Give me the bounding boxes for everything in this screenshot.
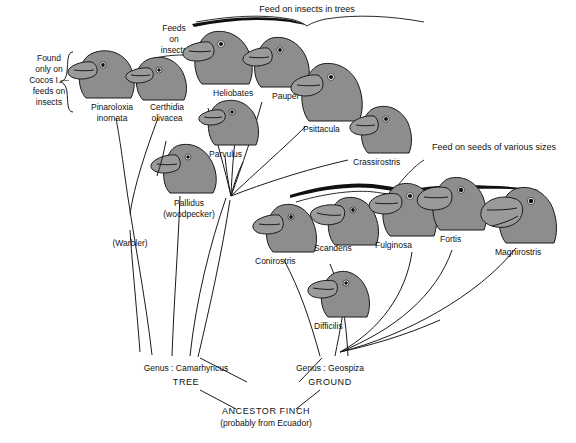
branch-tree-pallidus <box>172 196 180 356</box>
finch-radiation-figure: Feed on insects in trees Found only on C… <box>0 0 576 443</box>
bird-label-certhidia-line-1: olivacea <box>151 113 182 123</box>
ancestor-finch-line-1: ANCESTOR FINCH <box>222 406 310 416</box>
branch-tree-up-2 <box>190 198 226 356</box>
bird-label-pinaroloxia-line-0: Pinaroloxia <box>91 102 133 112</box>
left-bracket-label-line-2: Cocos I.— <box>29 75 69 85</box>
bird-label-fortis: Fortis <box>440 234 461 244</box>
branch-tree-warbler <box>130 230 140 352</box>
feeds-on-insects-line-1: on <box>169 34 179 44</box>
bird-head-pinaroloxia: Pinaroloxia inornata <box>68 51 134 123</box>
bird-head-certhidia: Certhidia olivacea <box>126 57 187 123</box>
branch-tree-pinaroloxia <box>116 118 152 355</box>
bird-head-pallidus: Pallidus (woodpecker) <box>151 141 216 219</box>
bird-label-difficilis: Difficilis <box>314 321 343 331</box>
ancestor-finch-line-2: (probably from Ecuador) <box>220 418 312 428</box>
left-bracket-label-line-3: feeds on <box>33 86 66 96</box>
genus-tree-group: Genus : Camarhyncus TREE <box>144 363 229 387</box>
genus-tree-name: Genus : Camarhyncus <box>144 363 229 373</box>
bird-label-heliobates: Heliobates <box>213 88 253 98</box>
bird-head-scandens: Scandens <box>311 197 379 253</box>
bird-head-heliobates: Heliobates <box>183 31 253 98</box>
bird-label-parvulus: Parvulus <box>209 149 242 159</box>
genus-tree-habit: TREE <box>173 377 199 387</box>
branch-apex-crassirostris <box>231 160 348 196</box>
feeds-on-insects-line-0: Feeds <box>162 23 186 33</box>
bird-label-pallidus-line-1: (woodpecker) <box>163 209 215 219</box>
left-bracket-label-line-0: Found <box>37 53 61 63</box>
branch-ground-conirostris <box>284 260 320 356</box>
left-bracket-label-line-4: insects <box>36 97 62 107</box>
bird-label-scandens: Scandens <box>314 243 352 253</box>
left-bracket-label-line-1: only on <box>35 64 63 74</box>
bird-label-magnirostris: Magnirostris <box>495 247 541 257</box>
top-bracket-label: Feed on insects in trees <box>259 4 355 14</box>
bird-label-fulginosa: Fulginosa <box>375 240 412 250</box>
bird-label-pallidus-line-0: Pallidus <box>174 198 204 208</box>
seeds-bracket-label: Feed on seeds of various sizes <box>432 142 557 152</box>
bird-head-conirostris: Conirostris <box>253 204 317 266</box>
ancestor-finch-group: ANCESTOR FINCH (probably from Ecuador) <box>200 390 320 428</box>
branch-label-warbler: (Warbler) <box>112 238 147 248</box>
bird-label-crassirostris: Crassirostris <box>353 157 400 167</box>
left-bracket-group: Found only on Cocos I.— feeds on insects <box>29 52 73 112</box>
bird-label-certhidia-line-0: Certhidia <box>150 102 184 112</box>
bird-label-psittacula: Psittacula <box>303 124 340 134</box>
bird-label-conirostris: Conirostris <box>255 256 296 266</box>
genus-ground-name: Genus : Geospiza <box>296 363 364 373</box>
top-bracket-group: Feed on insects in trees <box>196 4 424 26</box>
bird-label-pinaroloxia-line-1: inornata <box>97 113 128 123</box>
genus-ground-habit: GROUND <box>308 377 352 387</box>
bird-head-difficilis: Difficilis <box>308 271 370 331</box>
bird-head-magnirostris: Magnirostris <box>481 187 557 257</box>
